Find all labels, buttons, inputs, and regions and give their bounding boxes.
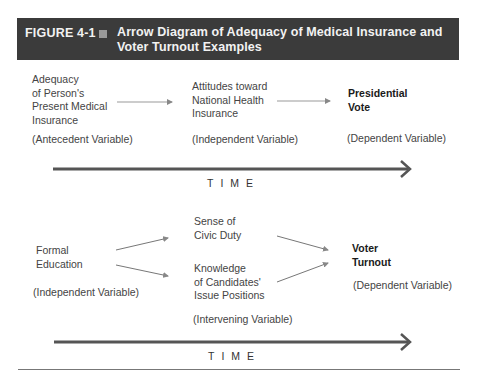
voter-turnout-role: (Dependent Variable): [353, 279, 452, 293]
formal-education-label: Formal Education: [36, 244, 83, 271]
civic-duty-label: Sense of Civic Duty: [194, 215, 241, 242]
antecedent-variable-label: Adequacy of Person's Present Medical Ins…: [32, 73, 107, 127]
intervening-role: (Intervening Variable): [193, 313, 293, 327]
dependent-variable-label: Presidential Vote: [348, 87, 408, 114]
candidate-knowledge-label: Knowledge of Candidates' Issue Positions: [194, 262, 265, 303]
formal-education-role: (Independent Variable): [33, 286, 139, 300]
antecedent-role: (Antecedent Variable): [32, 133, 133, 147]
bottom-rule: [18, 369, 460, 370]
time-label-2: TIME: [208, 350, 261, 362]
dependent-role: (Dependent Variable): [347, 132, 446, 146]
independent-role: (Independent Variable): [192, 133, 298, 147]
time-label-1: TIME: [207, 177, 260, 189]
voter-turnout-label: Voter Turnout: [352, 242, 391, 269]
independent-variable-label: Attitudes toward National Health Insuran…: [192, 80, 267, 121]
